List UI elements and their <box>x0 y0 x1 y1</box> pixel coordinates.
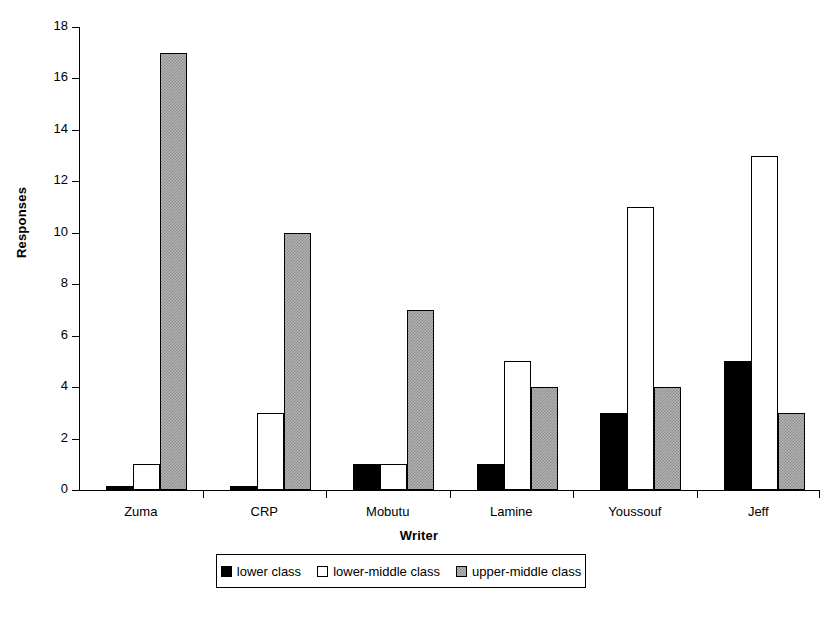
y-axis-tick-label: 2 <box>28 430 68 446</box>
legend-item[interactable]: lower class <box>221 564 301 579</box>
bar <box>133 464 160 490</box>
y-axis-tick-label: 12 <box>28 172 68 188</box>
legend-item-label: lower-middle class <box>333 564 440 579</box>
bar <box>751 156 778 490</box>
bar <box>230 486 257 490</box>
bar <box>654 387 681 490</box>
x-axis-tick <box>450 490 451 498</box>
y-axis-tick: 4 <box>72 387 79 388</box>
y-axis-tick: 12 <box>72 181 79 182</box>
y-axis-tick: 18 <box>72 27 79 28</box>
legend-item-label: upper-middle class <box>472 564 581 579</box>
bar-group <box>477 27 558 490</box>
legend-item[interactable]: lower-middle class <box>317 564 440 579</box>
y-axis-tick: 2 <box>72 439 79 440</box>
y-axis-tick: 8 <box>72 284 79 285</box>
bar <box>724 361 751 490</box>
bar <box>353 464 380 490</box>
y-axis-tick: 14 <box>72 130 79 131</box>
bar-group <box>600 27 681 490</box>
bar <box>504 361 531 490</box>
x-axis-title: Writer <box>0 528 838 543</box>
y-axis-tick-label: 18 <box>28 18 68 34</box>
x-axis-tick <box>573 490 574 498</box>
bar <box>600 413 627 490</box>
x-axis-tick-label: CRP <box>204 504 324 520</box>
bar-chart: Responses 024681012141618 ZumaCRPMobutuL… <box>0 0 838 620</box>
black-square-icon <box>221 566 232 577</box>
bar <box>531 387 558 490</box>
y-axis-title: Responses <box>14 163 29 283</box>
y-axis-tick-label: 10 <box>28 224 68 240</box>
y-axis-tick: 10 <box>72 233 79 234</box>
x-axis-tick-label: Mobutu <box>328 504 448 520</box>
x-axis-tick <box>819 490 820 498</box>
y-axis-tick-label: 6 <box>28 327 68 343</box>
white-square-icon <box>317 566 328 577</box>
bar-group <box>353 27 434 490</box>
bar <box>407 310 434 490</box>
y-axis-tick-label: 16 <box>28 69 68 85</box>
bar-group <box>724 27 805 490</box>
x-axis-tick-label: Lamine <box>451 504 571 520</box>
legend-item[interactable]: upper-middle class <box>456 564 581 579</box>
legend-item-label: lower class <box>237 564 301 579</box>
x-axis-tick-label: Zuma <box>81 504 201 520</box>
x-axis-tick <box>326 490 327 498</box>
y-axis-line <box>79 27 80 491</box>
bar-group <box>106 27 187 490</box>
y-axis-tick-label: 4 <box>28 378 68 394</box>
x-axis-tick-label: Youssouf <box>575 504 695 520</box>
bar <box>257 413 284 490</box>
bar <box>106 486 133 490</box>
y-axis-tick: 6 <box>72 336 79 337</box>
chart-legend: lower classlower-middle classupper-middl… <box>216 554 586 588</box>
y-axis-tick: 0 <box>72 490 79 491</box>
plot-area: 024681012141618 <box>79 27 820 490</box>
x-axis-tick <box>203 490 204 498</box>
y-axis-tick-label: 14 <box>28 121 68 137</box>
x-axis-tick <box>697 490 698 498</box>
y-axis-tick: 16 <box>72 78 79 79</box>
bar-group <box>230 27 311 490</box>
bar <box>284 233 311 490</box>
bar <box>380 464 407 490</box>
bar <box>477 464 504 490</box>
bar <box>778 413 805 490</box>
y-axis-tick-label: 0 <box>28 481 68 497</box>
x-axis-tick-label: Jeff <box>698 504 818 520</box>
bar <box>627 207 654 490</box>
y-axis-tick-label: 8 <box>28 275 68 291</box>
bar <box>160 53 187 490</box>
gray-hatched-square-icon <box>456 566 467 577</box>
